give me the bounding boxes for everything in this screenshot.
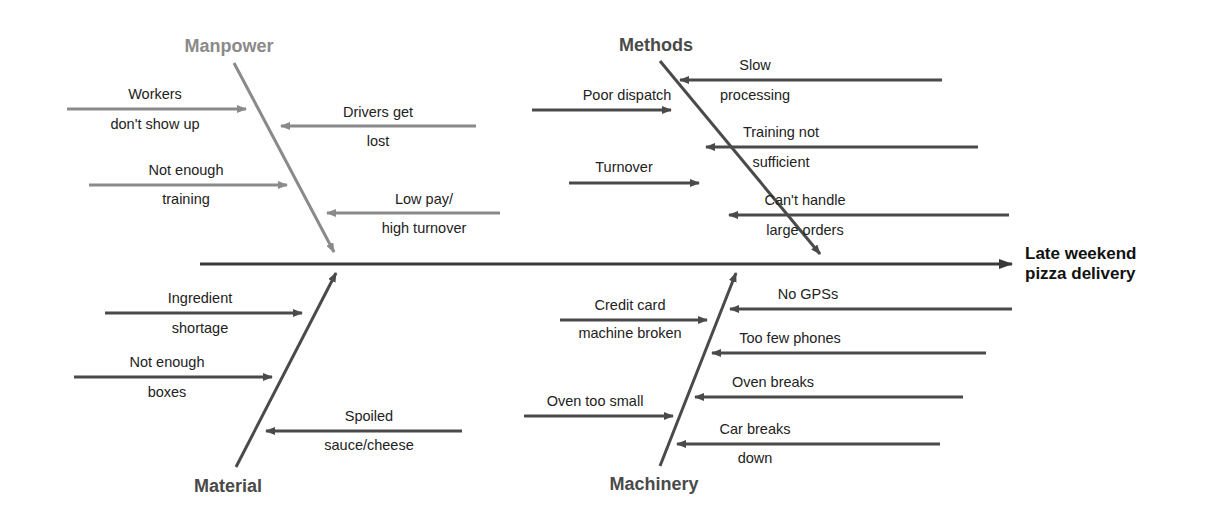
cause-label: sufficient [753,155,810,170]
machinery-bone-arrow [660,273,736,466]
cause-label: don't show up [110,117,199,132]
cause-label: Not enough [149,163,224,178]
effect-label: Late weekend pizza delivery [1025,244,1137,284]
cause-label: sauce/cheese [324,438,413,453]
cause-label: processing [720,88,790,103]
cause-label: Not enough [130,355,205,370]
cause-label: Too few phones [739,331,841,346]
cause-label: Training not [743,125,819,140]
fishbone-diagram: Manpower Methods Material Machinery Late… [0,0,1206,523]
cause-label: boxes [148,385,187,400]
cause-label: Drivers get [343,105,413,120]
cause-label: Oven too small [547,394,644,409]
cause-label: Ingredient [168,291,233,306]
category-label-material: Material [194,477,262,495]
material-bone-arrow [236,273,336,467]
cause-label: training [162,192,210,207]
manpower-bone-arrow [234,63,334,252]
cause-label: high turnover [382,221,467,236]
category-label-machinery: Machinery [609,475,698,493]
cause-label: Credit card [595,298,666,313]
cause-label: shortage [172,321,228,336]
cause-label: Car breaks [720,422,791,437]
cause-label: Slow [739,58,770,73]
cause-label: Low pay/ [395,192,453,207]
category-label-manpower: Manpower [184,37,273,55]
cause-label: Can't handle [765,193,846,208]
cause-label: Turnover [595,160,652,175]
cause-label: lost [367,134,390,149]
cause-label: down [738,451,773,466]
cause-label: machine broken [578,326,681,341]
cause-label: No GPSs [778,287,838,302]
cause-label: large orders [766,223,843,238]
effect-line-1: Late weekend [1025,244,1137,264]
cause-label: Oven breaks [732,375,814,390]
effect-line-2: pizza delivery [1025,264,1137,284]
cause-label: Spoiled [345,409,393,424]
cause-label: Workers [128,87,182,102]
category-label-methods: Methods [619,36,693,54]
cause-label: Poor dispatch [583,88,672,103]
